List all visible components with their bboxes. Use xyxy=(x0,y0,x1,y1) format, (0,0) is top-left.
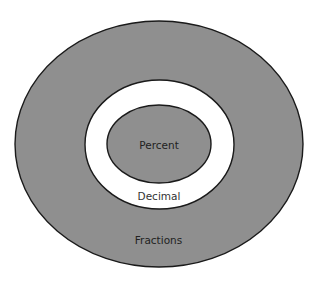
decimal-label: Decimal xyxy=(138,190,181,202)
nested-sets-diagram: Percent Decimal Fractions xyxy=(0,0,319,282)
percent-label: Percent xyxy=(139,139,179,151)
fractions-label: Fractions xyxy=(135,234,182,246)
